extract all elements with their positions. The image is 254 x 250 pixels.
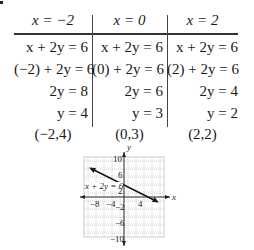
step-row: (0) + 2y = 6 xyxy=(92,59,163,79)
step-row: y = 3 xyxy=(92,103,163,123)
step-row: 2y = 4 xyxy=(167,81,238,101)
step-row: y = 4 xyxy=(14,103,88,123)
y-tick-label: 6 xyxy=(118,171,123,180)
x-tick-label: −8 xyxy=(90,200,100,209)
y-tick-label: 10 xyxy=(113,155,122,164)
header-x-0: x = 0 xyxy=(92,9,167,31)
coordinate-graph: y x x + 2y = 6 −8 −4 4 10 6 2 −2 −6 −10 xyxy=(78,138,178,250)
step-row: (2) + 2y = 6 xyxy=(167,59,238,79)
step-row: y = 2 xyxy=(167,103,238,123)
bullet-dot xyxy=(0,1,3,4)
y-tick-label: −6 xyxy=(115,219,125,228)
x-axis-label: x xyxy=(172,193,176,202)
header-x-2: x = 2 xyxy=(167,9,238,31)
step-row: x + 2y = 6 xyxy=(14,37,88,57)
step-row: x + 2y = 6 xyxy=(167,37,238,57)
graph-plot xyxy=(78,138,178,250)
step-row: 2y = 8 xyxy=(14,81,88,101)
step-row: x + 2y = 6 xyxy=(92,37,163,57)
y-axis-label: y xyxy=(127,143,131,152)
y-tick-label: −2 xyxy=(115,203,125,212)
header-x-neg2: x = −2 xyxy=(14,9,92,31)
step-row: (−2) + 2y = 6 xyxy=(14,59,88,79)
y-tick-label: −10 xyxy=(110,235,124,244)
header-divider xyxy=(14,33,238,35)
x-tick-label: 4 xyxy=(138,200,143,209)
y-tick-label: 2 xyxy=(118,187,123,196)
step-row: 2y = 6 xyxy=(92,81,163,101)
